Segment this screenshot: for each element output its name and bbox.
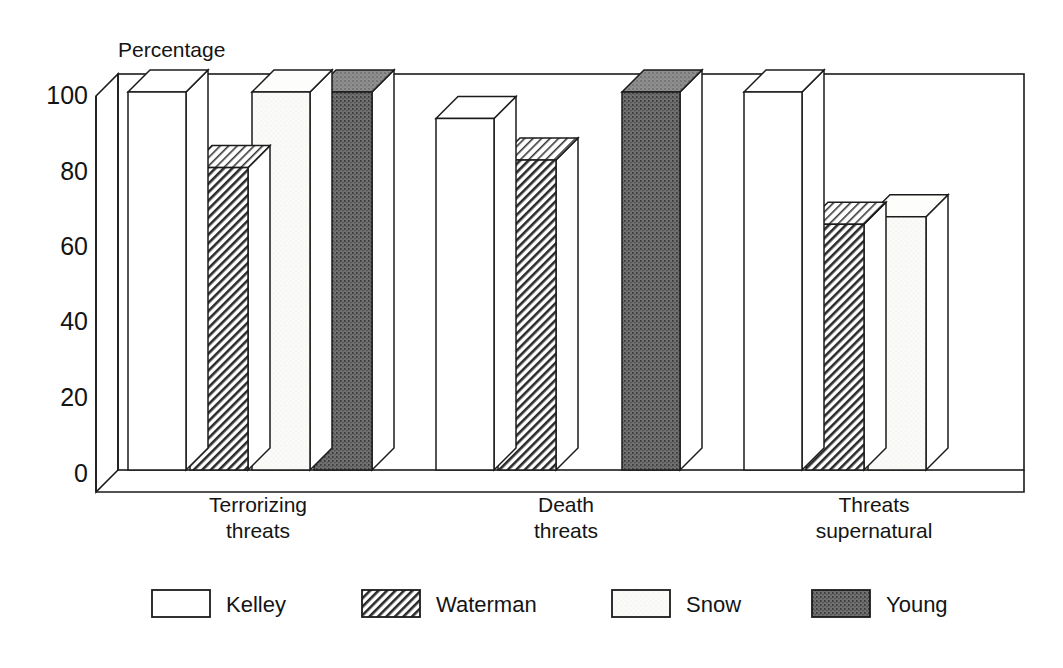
y-tick-100: 100 — [46, 81, 88, 109]
legend-item-snow: Snow — [612, 590, 741, 617]
chart-canvas: 100 80 60 40 20 0 Percentage Terrorizing… — [0, 0, 1063, 668]
y-tick-40: 40 — [60, 307, 88, 335]
category-label-2-line-1: Death — [538, 493, 594, 516]
y-axis-title: Percentage — [118, 38, 225, 61]
legend-label-kelley: Kelley — [226, 592, 286, 617]
bar-chart-figure: 100 80 60 40 20 0 Percentage Terrorizing… — [0, 0, 1063, 668]
bars-layer — [128, 70, 948, 470]
legend-label-snow: Snow — [686, 592, 741, 617]
category-label-1-line-2: threats — [226, 519, 290, 542]
legend-item-young: Young — [812, 590, 948, 617]
chart-legend: KelleyWatermanSnowYoung — [152, 590, 948, 617]
category-label-1-line-1: Terrorizing — [209, 493, 307, 516]
legend-label-waterman: Waterman — [436, 592, 537, 617]
legend-swatch-waterman — [362, 590, 420, 617]
y-tick-20: 20 — [60, 383, 88, 411]
y-tick-60: 60 — [60, 232, 88, 260]
y-tick-80: 80 — [60, 157, 88, 185]
legend-swatch-snow — [612, 590, 670, 617]
bar-kelley-2 — [436, 96, 516, 470]
y-axis-tick-labels: 100 80 60 40 20 0 — [46, 81, 88, 487]
legend-item-waterman: Waterman — [362, 590, 537, 617]
x-axis-category-labels: TerrorizingthreatsDeaththreatsThreatssup… — [209, 493, 932, 542]
legend-item-kelley: Kelley — [152, 590, 286, 617]
legend-swatch-kelley — [152, 590, 210, 617]
category-label-3-line-2: supernatural — [816, 519, 933, 542]
y-tick-0: 0 — [74, 459, 88, 487]
bar-kelley-3 — [744, 70, 824, 470]
legend-label-young: Young — [886, 592, 948, 617]
category-label-2-line-2: threats — [534, 519, 598, 542]
legend-swatch-young — [812, 590, 870, 617]
bar-kelley-1 — [128, 70, 208, 470]
category-label-3-line-1: Threats — [838, 493, 909, 516]
bar-young-2 — [622, 70, 702, 470]
